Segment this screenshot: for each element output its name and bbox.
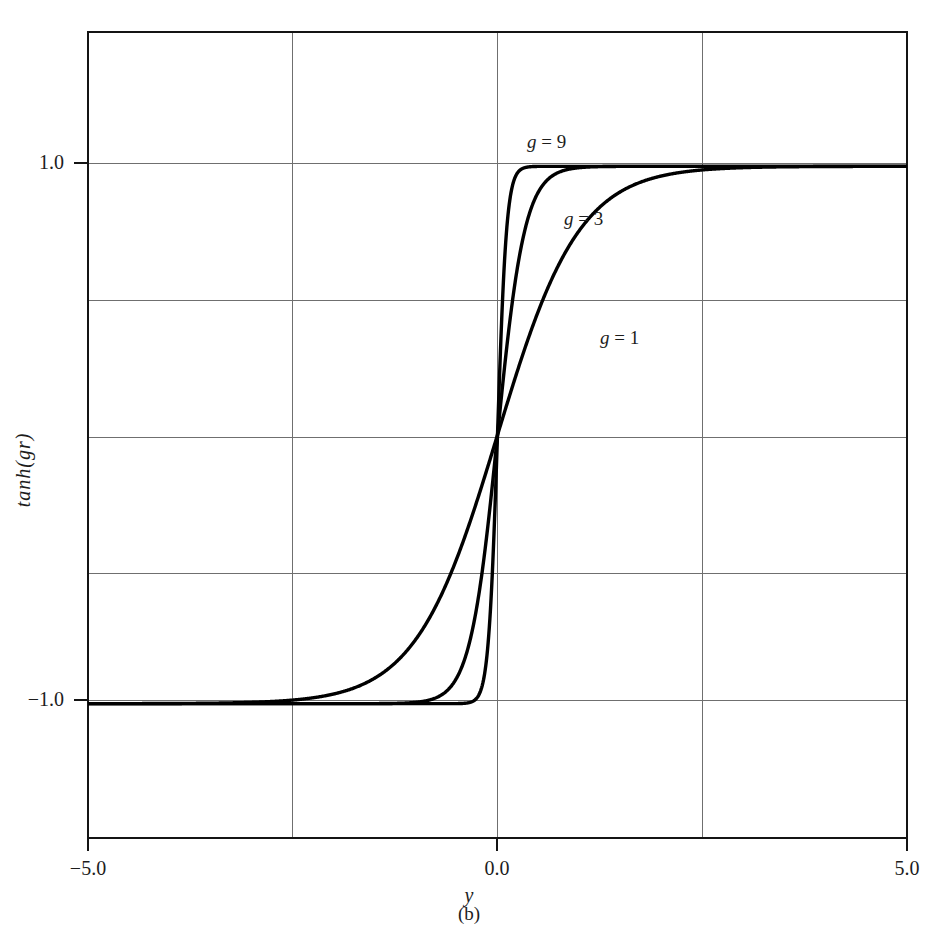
curve-label-g3-value: = 3 <box>574 208 604 229</box>
curve-label-g9-value: = 9 <box>537 131 567 152</box>
curve-label-g3-variable: g <box>564 208 574 229</box>
x-tick-marks <box>88 838 907 851</box>
y-tick-label-1.0: 1.0 <box>4 151 64 174</box>
curve-label-g9: g = 9 <box>527 131 566 153</box>
curve-label-g1-value: = 1 <box>610 327 640 348</box>
curve-label-g1: g = 1 <box>600 327 639 349</box>
figure-panel-b: 1.0 −1.0 −5.0 0.0 5.0 tanh(gr) y g = 9 g… <box>0 0 938 946</box>
x-tick-label--5.0: −5.0 <box>43 857 133 880</box>
panel-caption: (b) <box>0 903 938 925</box>
curve-label-g1-variable: g <box>600 327 610 348</box>
x-tick-label-0.0: 0.0 <box>452 857 542 880</box>
y-tick-marks <box>74 163 88 700</box>
y-axis-title: tanh(gr) <box>12 433 35 508</box>
curve-label-g9-variable: g <box>527 131 537 152</box>
x-tick-label-5.0: 5.0 <box>862 857 938 880</box>
figure-caption-strip <box>0 934 938 946</box>
curve-label-g3: g = 3 <box>564 208 603 230</box>
plot-canvas <box>0 0 938 946</box>
y-axis-title-wrapper: tanh(gr) <box>6 380 40 560</box>
y-tick-label--1.0: −1.0 <box>4 688 64 711</box>
